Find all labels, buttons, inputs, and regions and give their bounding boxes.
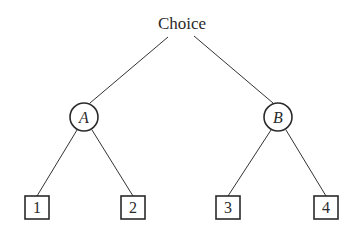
leaf-4: 4 — [314, 196, 338, 219]
root-label: Choice — [158, 14, 206, 33]
leaf-2: 2 — [121, 196, 145, 219]
node-a-label: A — [78, 109, 89, 126]
leaf-3: 3 — [216, 196, 240, 219]
leaf-3-label: 3 — [224, 199, 232, 216]
node-b: B — [264, 103, 292, 131]
leaf-1: 1 — [25, 196, 49, 219]
leaf-1-label: 1 — [33, 199, 41, 216]
node-b-label: B — [273, 109, 283, 126]
node-a: A — [70, 103, 98, 131]
leaf-4-label: 4 — [322, 199, 330, 216]
edge-choice-b — [194, 36, 273, 103]
decision-tree-diagram: Choice A B 1 2 3 4 — [0, 0, 356, 240]
edge-b-4 — [286, 130, 326, 196]
edge-b-3 — [228, 130, 271, 196]
edge-a-2 — [92, 130, 133, 196]
leaf-2-label: 2 — [129, 199, 137, 216]
edge-choice-a — [90, 37, 168, 103]
edge-a-1 — [37, 130, 77, 196]
